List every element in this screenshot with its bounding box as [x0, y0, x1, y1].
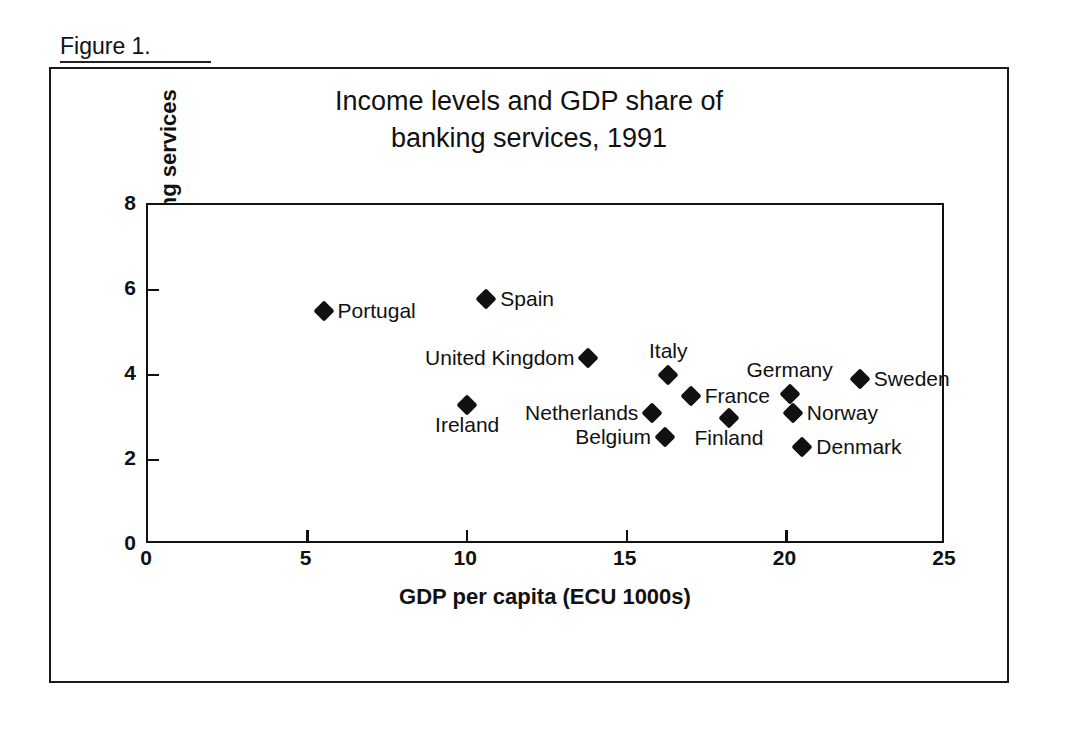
x-axis-tick-label: 0: [140, 547, 152, 569]
x-axis-tick: [785, 530, 788, 541]
data-point-marker: [849, 369, 870, 390]
x-axis-tick-label: 25: [932, 547, 955, 569]
y-axis-tick-label: 4: [106, 362, 136, 383]
data-point-marker: [680, 386, 701, 407]
data-point-marker: [578, 347, 599, 368]
x-axis-tick: [306, 530, 309, 541]
chart-title: Income levels and GDP share of banking s…: [51, 83, 1007, 157]
data-point-label: Portugal: [338, 300, 416, 322]
y-axis-tick: [148, 459, 159, 462]
x-axis-tick-label: 5: [300, 547, 312, 569]
figure-box: Income levels and GDP share of banking s…: [49, 67, 1009, 683]
data-point-marker: [779, 384, 800, 405]
data-point-marker: [782, 403, 803, 424]
x-axis-tick-labels: 0510152025: [146, 547, 944, 575]
data-point-label: Spain: [500, 288, 554, 310]
y-axis-tick-labels: 02468: [104, 203, 136, 543]
data-point-marker: [658, 364, 679, 385]
data-point-label: Denmark: [816, 436, 901, 458]
x-axis-title: GDP per capita (ECU 1000s): [146, 585, 944, 609]
data-point-label: Germany: [746, 359, 832, 381]
data-point-label: Ireland: [435, 414, 499, 436]
y-axis-tick-label: 8: [106, 192, 136, 213]
y-axis-tick-label: 0: [106, 532, 136, 553]
data-point-label: Italy: [649, 340, 688, 362]
data-point-marker: [792, 437, 813, 458]
x-axis-tick-label: 10: [454, 547, 477, 569]
data-point-marker: [313, 301, 334, 322]
y-axis-tick: [148, 289, 159, 292]
data-point-marker: [654, 426, 675, 447]
y-axis-tick-label: 2: [106, 447, 136, 468]
figure-caption: Figure 1.: [60, 33, 211, 63]
chart-title-line-2: banking services, 1991: [51, 120, 1007, 157]
x-axis-tick-label: 15: [613, 547, 636, 569]
chart-title-line-1: Income levels and GDP share of: [51, 83, 1007, 120]
data-point-marker: [642, 403, 663, 424]
y-axis-tick: [148, 374, 159, 377]
plot-area: PortugalSpainIrelandUnited KingdomItalyF…: [146, 203, 944, 543]
data-point-label: Norway: [807, 402, 878, 424]
data-point-label: Sweden: [874, 368, 950, 390]
data-point-label: Finland: [694, 427, 763, 449]
y-axis-tick-label: 6: [106, 277, 136, 298]
data-point-label: France: [705, 385, 770, 407]
data-point-label: Belgium: [575, 426, 651, 448]
data-point-marker: [476, 288, 497, 309]
data-point-label: United Kingdom: [425, 347, 574, 369]
x-axis-tick: [626, 530, 629, 541]
x-axis-tick-label: 20: [773, 547, 796, 569]
x-axis-tick: [466, 530, 469, 541]
data-point-label: Netherlands: [525, 402, 638, 424]
